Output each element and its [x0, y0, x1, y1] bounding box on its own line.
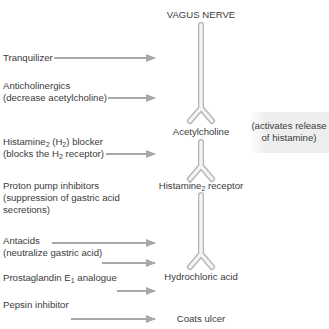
drug-h2-blocker: Histamine2 (H2) blocker — [3, 136, 103, 148]
vagus-nerve-label: VAGUS NERVE — [167, 9, 235, 21]
acetylcholine-stalk — [190, 142, 212, 179]
drug-proton-pump-inhibitors: Proton pump inhibitors — [3, 180, 99, 192]
drug-anticholinergics: Anticholinergics — [3, 80, 70, 92]
drug-h2-blocker-note: (blocks the H2 receptor) — [3, 148, 104, 160]
drug-anticholinergics-note: (decrease acetylcholine) — [3, 92, 107, 104]
side-note-line2: of histamine) — [262, 132, 317, 144]
histamine-stalk — [190, 195, 212, 267]
side-note-line1: (activates release — [251, 120, 326, 132]
drug-antacids-note: (neutralize gastric acid) — [3, 247, 102, 259]
drug-antacids: Antacids — [3, 235, 40, 247]
hydrochloric-acid-label: Hydrochloric acid — [164, 271, 238, 283]
drug-tranquilizer: Tranquilizer — [3, 52, 53, 64]
histamine-receptor-label: Histamine2 receptor — [159, 180, 243, 192]
coats-ulcer-label: Coats ulcer — [177, 313, 226, 325]
drug-pepsin-inhibitor: Pepsin inhibitor — [3, 299, 69, 311]
drug-prostaglandin: Prostaglandin E1 analogue — [3, 272, 117, 284]
acetylcholine-label: Acetylcholine — [173, 126, 230, 138]
drug-proton-pump-note1: (suppression of gastric acid — [3, 192, 120, 204]
drug-proton-pump-note2: secretions) — [3, 204, 50, 216]
vagus-nerve-stalk — [190, 25, 212, 121]
